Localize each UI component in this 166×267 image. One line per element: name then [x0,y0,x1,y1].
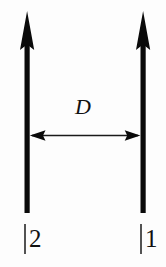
distance-arrow [30,130,141,140]
left-arrow-shaft [25,44,30,213]
diagram-svg [0,0,166,267]
distance-label: D [0,96,166,118]
right-arrow-head-icon [136,11,150,50]
figure-canvas: D 2 1 [0,0,166,267]
right-arrow-shaft [141,44,146,213]
state-label-right: 1 [145,226,158,251]
left-arrow-head-icon [20,11,34,50]
state-label-left: 2 [29,226,42,251]
